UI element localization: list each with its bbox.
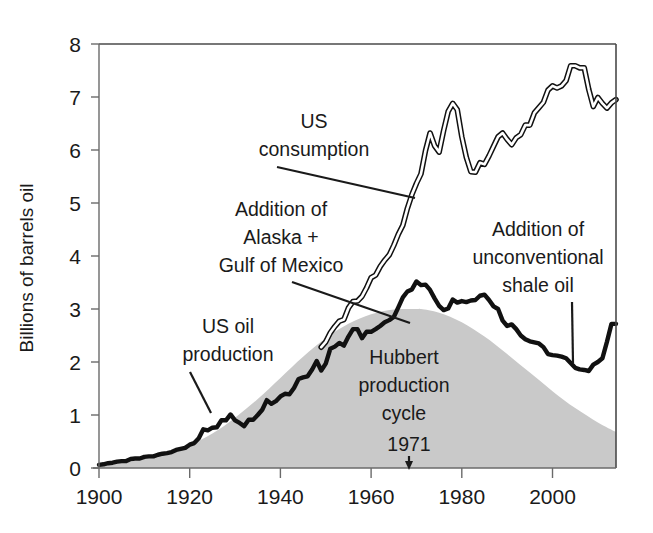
x-tick-label-1940: 1940	[257, 485, 304, 508]
leader-line-shale	[572, 302, 573, 363]
annotation-hubbert-line1: Hubbert	[369, 346, 439, 368]
chart-figure: 012345678 190019201940196019802000 Billi…	[0, 0, 653, 533]
annotation-us-consumption-line1: US	[300, 110, 327, 132]
annotation-shale-line2: unconventional	[472, 246, 603, 268]
y-axis-title: Billions of barrels oil	[16, 184, 37, 353]
x-tick-label-1900: 1900	[76, 485, 123, 508]
y-tick-label-3: 3	[69, 298, 81, 321]
annotation-alaska-line1: Addition of	[235, 198, 328, 220]
y-axis-ticks: 012345678	[69, 33, 99, 480]
y-tick-label-7: 7	[69, 86, 81, 109]
x-tick-label-1960: 1960	[348, 485, 395, 508]
annotation-us-consumption-line2: consumption	[259, 138, 370, 160]
annotation-alaska-line2: Alaska +	[243, 226, 318, 248]
y-tick-label-5: 5	[69, 192, 81, 215]
y-tick-label-2: 2	[69, 351, 81, 374]
annotation-shale-line1: Addition of	[492, 218, 585, 240]
annotation-peak-year: 1971	[387, 433, 430, 455]
x-tick-label-1920: 1920	[166, 485, 213, 508]
annotation-us-oil-production-line1: US oil	[202, 315, 254, 337]
annotation-us-oil-production-line2: production	[182, 343, 273, 365]
y-tick-label-4: 4	[69, 245, 81, 268]
x-axis-ticks: 190019201940196019802000	[76, 468, 576, 508]
y-tick-label-0: 0	[69, 457, 81, 480]
y-tick-label-6: 6	[69, 139, 81, 162]
annotation-hubbert-line2: production	[358, 374, 449, 396]
annotation-alaska-line3: Gulf of Mexico	[219, 254, 344, 276]
y-tick-label-8: 8	[69, 33, 81, 56]
y-tick-label-1: 1	[69, 404, 81, 427]
x-tick-label-1980: 1980	[438, 485, 485, 508]
annotation-hubbert-line3: cycle	[382, 402, 426, 424]
x-tick-label-2000: 2000	[529, 485, 576, 508]
annotation-shale-line3: shale oil	[502, 274, 574, 296]
oil-production-consumption-chart: 012345678 190019201940196019802000 Billi…	[0, 0, 653, 533]
